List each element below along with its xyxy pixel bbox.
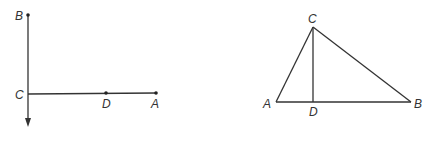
right-figure: C A D B: [262, 12, 422, 119]
label-a: A: [262, 97, 271, 111]
label-c: C: [308, 12, 317, 26]
point-d: [104, 91, 108, 95]
label-a: A: [150, 97, 159, 111]
label-b: B: [15, 9, 23, 23]
point-a: [154, 91, 158, 95]
left-figure: B C D A: [15, 9, 159, 127]
label-b: B: [414, 97, 422, 111]
segment-ca: [28, 93, 156, 94]
side-cb: [313, 27, 411, 102]
label-d: D: [309, 105, 318, 119]
geometry-diagram: B C D A C A D B: [0, 0, 432, 147]
point-b: [26, 13, 30, 17]
label-d: D: [102, 97, 111, 111]
arrow-down-icon: [25, 118, 31, 127]
label-c: C: [15, 88, 24, 102]
side-ac: [276, 27, 313, 102]
